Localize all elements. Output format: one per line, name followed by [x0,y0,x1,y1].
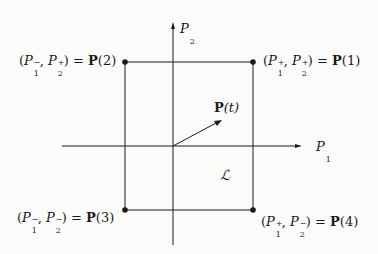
bold-P: P [86,210,96,225]
sign: + [278,59,285,67]
y-axis-var: P [180,21,189,36]
corner-dot-P1 [250,59,256,65]
bold-P: P [88,53,98,68]
x-axis-label: P1 [316,140,332,153]
vector-label-bold: P [214,100,224,115]
sign: − [32,216,39,224]
corner-label-P3: (P−1, P−2) = P(3) [17,211,114,224]
sign: + [276,220,283,228]
equals: ) = [308,53,332,68]
bold-P: P [332,53,342,68]
corner-dot-P2 [122,59,128,65]
y-axis-sub: 2 [190,38,195,46]
equals: ) = [306,214,330,229]
y-axis-arrow-icon [171,22,175,29]
corner-label-P4: (P+1, P−2) = P(4) [261,215,358,228]
arg: (4) [340,214,358,229]
sign: − [56,216,63,224]
corner-label-P2: (P−1, P+2) = P(2) [19,54,116,67]
arg: (2) [98,53,116,68]
diagram: P2 P1 ℒ P(t) (P−1, P+2) = P(2) (P+1, P+2… [0,0,378,254]
corner-label-P1: (P+1, P+2) = P(1) [263,54,360,67]
corner-dot-P3 [122,207,128,213]
corner-dot-P4 [250,207,256,213]
vector-label: P(t) [214,101,239,114]
equals: ) = [64,53,88,68]
arg: (1) [342,53,360,68]
bold-P: P [330,214,340,229]
sign: − [300,220,307,228]
sign: + [302,59,309,67]
vector-Pt [173,122,218,146]
arg: (3) [96,210,114,225]
feasible-rectangle [125,62,253,210]
x-axis-arrow-icon [295,144,302,148]
x-axis-sub: 1 [326,156,331,164]
sign: − [34,59,41,67]
x-axis-var: P [316,139,325,154]
vector-label-arg: (t) [224,100,239,115]
sign: + [58,59,65,67]
equals: ) = [62,210,86,225]
y-axis-label: P2 [180,22,196,35]
region-label: ℒ [220,168,230,182]
